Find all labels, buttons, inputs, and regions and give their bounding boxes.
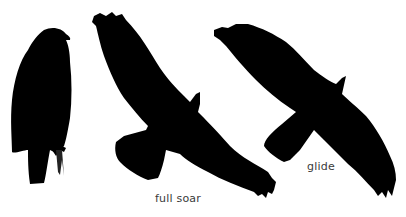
- bird-silhouettes-illustration: [0, 0, 406, 217]
- perched-bird-silhouette: [11, 28, 71, 184]
- full-soar-label: full soar: [155, 192, 201, 205]
- glide-label: glide: [307, 160, 335, 173]
